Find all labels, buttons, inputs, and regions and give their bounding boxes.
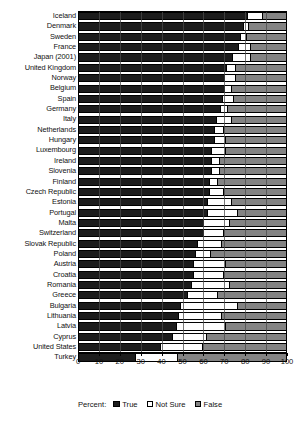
bar-segment-not-sure	[176, 323, 226, 329]
bar-segment-true	[79, 96, 222, 102]
bar-segment-true	[79, 34, 240, 40]
row-label-austria: Austria	[0, 259, 78, 269]
row-bar-track	[78, 311, 287, 321]
bar-segment-not-sure	[224, 75, 236, 81]
row-bar-track	[78, 73, 287, 83]
bar-segment-not-sure	[232, 54, 251, 60]
row-bar-track	[78, 52, 287, 62]
bar-segment-not-sure	[178, 313, 221, 319]
x-tick-label-80: 80	[241, 357, 249, 366]
row-bar-track	[78, 321, 287, 331]
chart-row: Luxembourg	[0, 145, 307, 155]
row-label-finland: Finland	[0, 177, 78, 187]
bar-segment-false	[226, 148, 286, 154]
bar-segment-not-sure	[160, 344, 203, 350]
bar-segment-not-sure	[209, 189, 224, 195]
bar-segment-false	[218, 292, 286, 298]
row-bar-track	[78, 94, 287, 104]
row-label-malta: Malta	[0, 218, 78, 228]
chart-row: Bulgaria	[0, 301, 307, 311]
bar-segment-true	[79, 127, 214, 133]
row-bar-track	[78, 11, 287, 21]
chart-row: Denmark	[0, 21, 307, 31]
chart-rows: IcelandDenmarkSwedenFranceJapan (2001)Un…	[0, 11, 307, 363]
bar-segment-false	[247, 34, 286, 40]
chart-row: United States	[0, 342, 307, 352]
legend-swatch-false-icon	[195, 401, 201, 407]
row-bar-track	[78, 249, 287, 259]
bar-segment-not-sure	[211, 168, 219, 174]
bar-segment-not-sure	[203, 220, 230, 226]
row-bar-track	[78, 166, 287, 176]
row-label-poland: Poland	[0, 249, 78, 259]
row-label-germany: Germany	[0, 104, 78, 114]
chart-row: Czech Republic	[0, 187, 307, 197]
chart-row: Finland	[0, 177, 307, 187]
bar-segment-false	[226, 137, 286, 143]
legend-label-false: False	[204, 400, 223, 409]
chart-row: United Kingdom	[0, 63, 307, 73]
row-label-portugal: Portugal	[0, 208, 78, 218]
x-tick-label-40: 40	[157, 357, 165, 366]
row-label-united-states: United States	[0, 342, 78, 352]
bar-segment-false	[222, 313, 286, 319]
row-bar-track	[78, 228, 287, 238]
bar-segment-not-sure	[211, 158, 219, 164]
chart-row: Ireland	[0, 156, 307, 166]
x-tick-label-50: 50	[178, 357, 186, 366]
row-label-spain: Spain	[0, 94, 78, 104]
bar-segment-false	[234, 96, 286, 102]
row-label-turkey: Turkey	[0, 352, 78, 362]
legend-swatch-true-icon	[113, 401, 119, 407]
bar-segment-false	[207, 334, 286, 340]
bar-segment-not-sure	[238, 44, 250, 50]
chart-row: Poland	[0, 249, 307, 259]
row-bar-track	[78, 135, 287, 145]
bar-segment-false	[228, 106, 286, 112]
bar-segment-true	[79, 303, 180, 309]
bar-segment-true	[79, 106, 220, 112]
x-tick-label-90: 90	[262, 357, 270, 366]
row-label-japan-2001: Japan (2001)	[0, 52, 78, 62]
row-label-france: France	[0, 42, 78, 52]
chart-row: Austria	[0, 259, 307, 269]
bar-segment-false	[220, 158, 286, 164]
row-label-cyprus: Cyprus	[0, 332, 78, 342]
legend-title: Percent:	[78, 400, 106, 409]
row-bar-track	[78, 145, 287, 155]
bar-segment-not-sure	[193, 272, 224, 278]
bar-segment-true	[79, 148, 211, 154]
chart-row: Germany	[0, 104, 307, 114]
bar-segment-true	[79, 344, 160, 350]
row-label-sweden: Sweden	[0, 32, 78, 42]
row-bar-track	[78, 125, 287, 135]
row-bar-track	[78, 239, 287, 249]
row-bar-track	[78, 218, 287, 228]
bar-segment-not-sure	[207, 210, 238, 216]
row-label-slovenia: Slovenia	[0, 166, 78, 176]
bar-segment-true	[79, 282, 191, 288]
bar-segment-false	[224, 127, 286, 133]
chart-legend: Percent: True Not Sure False	[78, 397, 307, 411]
bar-segment-false	[251, 44, 286, 50]
bar-segment-not-sure	[180, 303, 238, 309]
bar-segment-false	[230, 282, 286, 288]
legend-label-not-sure: Not Sure	[156, 400, 186, 409]
row-label-ireland: Ireland	[0, 156, 78, 166]
row-label-slovak-republic: Slovak Republic	[0, 239, 78, 249]
row-bar-track	[78, 208, 287, 218]
bar-segment-false	[220, 168, 286, 174]
row-label-lithuania: Lithuania	[0, 311, 78, 321]
bar-segment-false	[224, 189, 286, 195]
bar-segment-false	[238, 303, 286, 309]
chart-row: Romania	[0, 280, 307, 290]
row-label-hungary: Hungary	[0, 135, 78, 145]
chart-row: Malta	[0, 218, 307, 228]
bar-segment-true	[79, 189, 209, 195]
x-tick-label-20: 20	[116, 357, 124, 366]
row-bar-track	[78, 270, 287, 280]
chart-row: Slovenia	[0, 166, 307, 176]
row-label-netherlands: Netherlands	[0, 125, 78, 135]
legend-swatch-not-sure-icon	[147, 401, 153, 407]
bar-segment-true	[79, 137, 214, 143]
